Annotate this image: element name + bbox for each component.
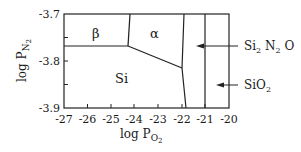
arrow-si2n2o <box>196 44 238 49</box>
x-axis-label: log PO2 <box>120 127 163 145</box>
arrow-sio2 <box>216 83 238 88</box>
svg-text:-3.8: -3.8 <box>39 55 60 68</box>
arrow-head-icon <box>216 83 224 88</box>
y-tick-labels: -3.7 -3.8 -3.9 <box>39 8 60 115</box>
sio2-label: SiO2 <box>244 78 271 94</box>
svg-text:-3.7: -3.7 <box>39 8 60 21</box>
svg-text:-21: -21 <box>196 113 214 126</box>
phase-boundaries <box>64 14 205 108</box>
phase-diagram: β α Si Si2 N2 O SiO2 -3.7 -3.8 -3.9 -27 … <box>0 0 301 152</box>
svg-text:-22: -22 <box>173 113 191 126</box>
x-tick-labels: -27 -26 -25 -24 -23 -22 -21 -20 <box>55 113 238 126</box>
beta-alpha-boundary <box>128 14 130 46</box>
svg-text:-26: -26 <box>79 113 97 126</box>
plot-frame <box>64 14 229 108</box>
region-beta-label: β <box>92 26 100 41</box>
svg-text:-27: -27 <box>55 113 73 126</box>
alpha-si-boundary <box>128 46 182 68</box>
svg-text:-20: -20 <box>220 113 238 126</box>
arrow-head-icon <box>196 44 204 49</box>
svg-text:-23: -23 <box>149 113 167 126</box>
region-si-label: Si <box>115 71 128 86</box>
region-alpha-label: α <box>150 26 159 41</box>
svg-text:-24: -24 <box>125 113 143 126</box>
si2n2o-label: Si2 N2 O <box>244 39 294 55</box>
y-axis-label: log PN2 <box>15 39 33 82</box>
svg-text:-25: -25 <box>102 113 120 126</box>
si-si2n2o-boundary <box>182 14 186 108</box>
